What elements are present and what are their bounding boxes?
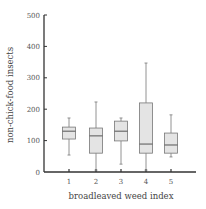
iqr-box bbox=[90, 128, 103, 153]
box-plot-chart: 0100200300400500 12345 non-chick-food in… bbox=[0, 0, 206, 209]
box-5 bbox=[165, 115, 178, 157]
iqr-box bbox=[165, 133, 178, 153]
iqr-box bbox=[140, 103, 153, 153]
boxes bbox=[63, 63, 178, 170]
y-tick-label: 500 bbox=[27, 12, 40, 20]
box-4 bbox=[140, 63, 153, 170]
box-2 bbox=[90, 102, 103, 170]
y-axis-title: non-chick-food insects bbox=[5, 47, 15, 143]
x-tick-label: 4 bbox=[144, 178, 149, 186]
x-tick-label: 1 bbox=[67, 178, 71, 186]
x-tick-label: 2 bbox=[94, 178, 98, 186]
box-3 bbox=[115, 118, 128, 164]
y-tick-label: 200 bbox=[27, 106, 40, 114]
y-tick-label: 400 bbox=[27, 43, 40, 51]
iqr-box bbox=[63, 127, 76, 139]
y-tick-label: 300 bbox=[27, 74, 40, 82]
box-1 bbox=[63, 118, 76, 155]
y-tick-label: 0 bbox=[36, 169, 40, 177]
y-tick-label: 100 bbox=[27, 137, 40, 145]
x-axis: 12345 bbox=[44, 169, 196, 186]
x-tick-label: 3 bbox=[119, 178, 123, 186]
x-axis-title: broadleaved weed index bbox=[69, 191, 174, 201]
y-axis: 0100200300400500 bbox=[27, 12, 47, 177]
x-tick-label: 5 bbox=[169, 178, 173, 186]
